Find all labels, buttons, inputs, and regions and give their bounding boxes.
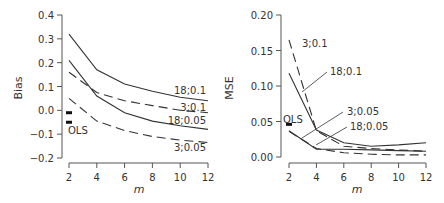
x-tick-label: 12 (202, 172, 215, 183)
x-tick-label: 6 (121, 172, 127, 183)
bias-label-18-0.1: 18;0.1 (174, 85, 206, 96)
bias-ols-label: OLS (68, 125, 88, 136)
mse-series-lines (289, 40, 426, 155)
ols-marker (66, 111, 72, 114)
mse-label-18-0.1: 18;0.1 (330, 66, 362, 77)
mse-label-3-0.05: 3;0.05 (347, 106, 379, 117)
series-line (289, 131, 426, 152)
y-tick-label: −0.1 (30, 129, 54, 140)
y-tick-label: 0.10 (251, 81, 273, 92)
mse-chart: 0.200.150.100.050.00 24681012 MSE m 3;0.… (223, 10, 432, 196)
bias-x-ticks: 24681012 (66, 163, 215, 183)
x-tick-label: 10 (174, 172, 187, 183)
x-tick-label: 2 (286, 172, 292, 183)
y-tick-label: 0.0 (38, 105, 54, 116)
y-tick-label: 0.00 (251, 152, 273, 163)
x-tick-label: 10 (392, 172, 405, 183)
x-tick-label: 8 (368, 172, 374, 183)
bias-y-label: Bias (12, 76, 25, 99)
bias-chart: 0.40.30.20.10.0−0.1−0.2 24681012 Bias m … (12, 10, 214, 196)
mse-y-label: MSE (223, 76, 236, 99)
y-tick-label: 0.2 (38, 58, 54, 69)
x-tick-label: 8 (149, 172, 155, 183)
ols-marker (66, 121, 72, 124)
x-tick-label: 4 (94, 172, 100, 183)
mse-y-ticks: 0.200.150.100.050.00 (251, 10, 281, 163)
x-tick-label: 2 (66, 172, 72, 183)
y-tick-label: 0.20 (251, 10, 273, 21)
y-tick-label: 0.3 (38, 34, 54, 45)
bias-x-label: m (134, 183, 145, 196)
y-tick-label: 0.15 (251, 46, 273, 57)
bias-label-3-0.05: 3;0.05 (174, 142, 206, 153)
y-tick-label: 0.4 (38, 10, 54, 21)
mse-label-18-0.05: 18;0.05 (350, 121, 388, 132)
x-tick-label: 4 (313, 172, 319, 183)
mse-series-labels: 3;0.1 18;0.1 3;0.05 18;0.05 (302, 38, 388, 132)
mse-x-ticks: 24681012 (286, 163, 433, 183)
x-tick-label: 6 (341, 172, 347, 183)
series-line (289, 131, 426, 155)
bias-label-18-0.05: 18;0.05 (168, 115, 206, 126)
bias-ols-markers (66, 111, 72, 124)
bias-y-ticks: 0.40.30.20.10.0−0.1−0.2 (30, 10, 62, 164)
mse-ols-label: OLS (283, 114, 303, 125)
bias-label-3-0.1: 3;0.1 (180, 102, 206, 113)
mse-label-3-0.1: 3;0.1 (302, 38, 328, 49)
y-tick-label: 0.05 (251, 117, 273, 128)
figure: 0.40.30.20.10.0−0.1−0.2 24681012 Bias m … (0, 0, 444, 203)
y-tick-label: 0.1 (38, 82, 54, 93)
y-tick-label: −0.2 (30, 153, 54, 164)
x-tick-label: 12 (420, 172, 433, 183)
series-line (289, 40, 426, 151)
mse-x-label: m (352, 183, 363, 196)
bias-series-labels: 18;0.1 3;0.1 18;0.05 3;0.05 (168, 85, 206, 153)
